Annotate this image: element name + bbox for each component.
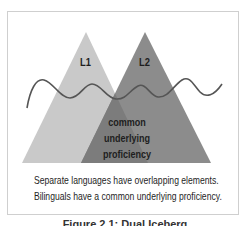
figure-caption: Figure 2.1: Dual Iceberg [40,218,210,226]
overlap-label-line: proficiency [98,146,155,162]
overlap-label: common underlying proficiency [98,114,155,162]
l1-label: L1 [80,56,91,68]
description-line: Bilinguals have a common underlying prof… [34,188,215,204]
overlap-label-line: common [98,114,155,130]
l2-label: L2 [139,56,150,68]
diagram-description: Separate languages have overlapping elem… [34,172,215,204]
overlap-label-line: underlying [98,130,155,146]
description-line: Separate languages have overlapping elem… [34,172,215,188]
